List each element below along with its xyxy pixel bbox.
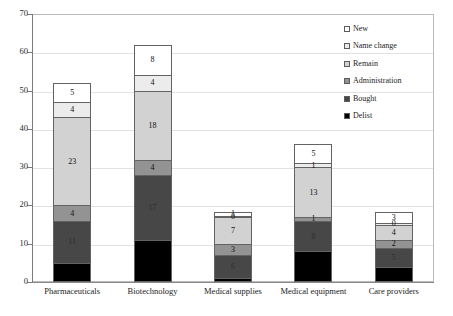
bar-segment[interactable]: 7 xyxy=(214,217,252,244)
legend-item[interactable]: Bought xyxy=(344,90,444,108)
bar-group[interactable]: 811315 xyxy=(294,14,332,282)
bar-group[interactable]: 63701 xyxy=(214,14,252,282)
bar-segment[interactable] xyxy=(294,251,332,282)
legend-swatch-icon xyxy=(344,61,350,67)
bar-segment[interactable]: 1 xyxy=(294,163,332,167)
legend-item[interactable]: Delist xyxy=(344,108,444,126)
bar-segment-value: 8 xyxy=(311,233,315,241)
y-axis-tick-label: 40 xyxy=(20,124,29,133)
legend-label: Bought xyxy=(353,95,377,103)
bar-segment[interactable]: 8 xyxy=(294,221,332,252)
bar-segment-value: 4 xyxy=(70,106,74,114)
bar-segment[interactable]: 4 xyxy=(53,102,91,117)
x-axis-label: Pharmaceuticals xyxy=(32,287,112,296)
legend-label: New xyxy=(353,25,368,33)
y-axis-tick-label: 10 xyxy=(20,239,29,248)
bar-segment-value: 13 xyxy=(309,189,317,197)
bar-segment[interactable]: 3 xyxy=(214,244,252,255)
bar-segment-value: 5 xyxy=(392,254,396,262)
bar-segment[interactable]: 5 xyxy=(375,248,413,267)
bar-segment-value: 3 xyxy=(231,246,235,254)
x-axis-label: Medical equipment xyxy=(273,287,353,296)
x-axis-label: Care providers xyxy=(354,287,434,296)
y-axis-tick-label: 60 xyxy=(20,47,29,56)
bar-segment-value: 11 xyxy=(68,238,76,246)
bar-segment[interactable]: 8 xyxy=(134,45,172,76)
bar-segment-value: 4 xyxy=(151,79,155,87)
bar-stack: 1741848 xyxy=(134,45,172,282)
bar-stack: 63701 xyxy=(214,212,252,282)
legend-swatch-icon xyxy=(344,78,350,84)
legend-swatch-icon xyxy=(344,113,350,119)
legend-item[interactable]: Administration xyxy=(344,73,444,91)
y-axis-tick-label: 20 xyxy=(20,200,29,209)
bar-stack: 811315 xyxy=(294,144,332,282)
bar-segment[interactable]: 2 xyxy=(375,240,413,248)
bar-segment-value: 1 xyxy=(311,162,315,170)
bar-segment-value: 1 xyxy=(231,210,235,218)
bar-stack: 52403 xyxy=(375,212,413,282)
bar-segment-value: 4 xyxy=(392,229,396,237)
bar-group[interactable]: 1142345 xyxy=(53,14,91,282)
y-axis-tick-label: 50 xyxy=(20,86,29,95)
bar-segment-value: 2 xyxy=(392,240,396,248)
bar-segment-value: 4 xyxy=(70,210,74,218)
bar-segment[interactable]: 1 xyxy=(214,212,252,216)
bar-segment-value: 5 xyxy=(70,89,74,97)
bar-stack: 1142345 xyxy=(53,83,91,282)
y-axis-tick-label: 0 xyxy=(24,277,28,286)
legend-label: Name change xyxy=(353,42,397,50)
y-axis-tick-label: 30 xyxy=(20,162,29,171)
bar-segment-value: 5 xyxy=(311,150,315,158)
x-axis-labels: PharmaceuticalsBiotechnologyMedical supp… xyxy=(32,287,434,307)
bar-segment-value: 7 xyxy=(231,227,235,235)
bar-segment-value: 8 xyxy=(151,56,155,64)
bar-segment[interactable]: 17 xyxy=(134,175,172,240)
legend-item[interactable]: Remain xyxy=(344,55,444,73)
bar-segment-value: 1 xyxy=(311,215,315,223)
legend-swatch-icon xyxy=(344,96,350,102)
legend-label: Administration xyxy=(353,77,401,85)
bar-segment[interactable]: 0 xyxy=(375,223,413,225)
bar-segment-value: 23 xyxy=(68,158,76,166)
bar-segment[interactable]: 18 xyxy=(134,91,172,160)
legend-item[interactable]: Name change xyxy=(344,38,444,56)
bar-segment-value: 4 xyxy=(151,164,155,172)
y-axis-tick-label: 70 xyxy=(20,9,29,18)
bar-segment[interactable]: 13 xyxy=(294,167,332,217)
bar-segment[interactable]: 11 xyxy=(53,221,91,263)
legend-swatch-icon xyxy=(344,26,350,32)
legend-label: Delist xyxy=(353,112,372,120)
bar-segment-value: 3 xyxy=(392,214,396,222)
legend-label: Remain xyxy=(353,60,378,68)
x-axis-label: Medical supplies xyxy=(193,287,273,296)
bar-segment[interactable]: 4 xyxy=(134,75,172,90)
legend-item[interactable]: New xyxy=(344,20,444,38)
bar-segment[interactable]: 4 xyxy=(53,205,91,220)
x-axis-label: Biotechnology xyxy=(112,287,192,296)
bar-segment[interactable]: 6 xyxy=(214,255,252,278)
bar-segment[interactable]: 1 xyxy=(294,217,332,221)
bar-segment-value: 17 xyxy=(149,204,157,212)
bar-segment[interactable]: 4 xyxy=(134,160,172,175)
bar-segment-value: 18 xyxy=(149,122,157,130)
bar-segment[interactable]: 3 xyxy=(375,212,413,223)
bar-segment[interactable] xyxy=(375,267,413,282)
bar-segment[interactable] xyxy=(53,263,91,282)
x-axis-line xyxy=(32,282,434,283)
bar-segment[interactable] xyxy=(134,240,172,282)
legend-swatch-icon xyxy=(344,43,350,49)
bar-segment-value: 6 xyxy=(231,263,235,271)
bar-group[interactable]: 1741848 xyxy=(134,14,172,282)
chart-legend: NewName changeRemainAdministrationBought… xyxy=(344,20,444,125)
bar-segment[interactable]: 23 xyxy=(53,117,91,205)
stacked-bar-chart: 706050403020100 114234517418486370181131… xyxy=(0,0,453,316)
bar-segment[interactable]: 5 xyxy=(53,83,91,102)
